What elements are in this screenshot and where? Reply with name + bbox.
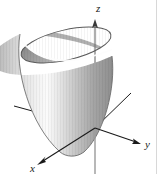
z-axis-label: z — [95, 2, 101, 14]
y-axis-label: y — [144, 138, 150, 150]
x-axis-label: x — [29, 162, 35, 174]
x-axis-arrowhead — [37, 157, 46, 166]
figure-canvas: z y x — [0, 0, 157, 174]
image-right-border — [156, 0, 157, 174]
y-axis-positive-line — [95, 128, 136, 142]
elliptic-paraboloid-surface — [0, 0, 157, 174]
paraboloid-figure-svg: z y x — [0, 0, 157, 174]
